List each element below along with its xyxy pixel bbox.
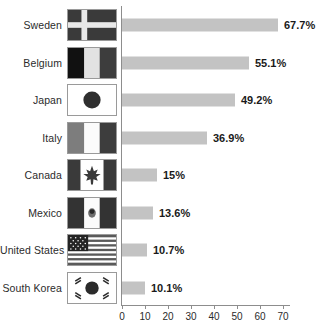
- bar-value-label: 13.6%: [159, 207, 190, 219]
- flag-belgium-icon: [67, 47, 117, 79]
- x-axis-tick: [237, 305, 238, 309]
- bar: [122, 19, 278, 32]
- x-axis-tick-label: 10: [139, 311, 150, 322]
- flag-mexico-icon: [67, 197, 117, 229]
- bar-value-label: 67.7%: [284, 19, 315, 31]
- bar: [122, 244, 147, 257]
- x-axis-tick: [283, 305, 284, 309]
- bar-value-label: 15%: [163, 169, 185, 181]
- x-axis-tick: [260, 305, 261, 309]
- category-label: United States: [0, 244, 62, 256]
- bar: [122, 206, 153, 219]
- category-label: Belgium: [0, 57, 62, 69]
- x-axis-tick-label: 50: [231, 311, 242, 322]
- category-label: Canada: [0, 169, 62, 181]
- table-row: Belgium 55.1%: [0, 44, 317, 82]
- bar: [122, 281, 145, 294]
- x-axis-tick: [214, 305, 215, 309]
- x-axis-tick-label: 40: [208, 311, 219, 322]
- category-label: Japan: [0, 94, 62, 106]
- x-axis-tick-label: 60: [254, 311, 265, 322]
- bar-value-label: 36.9%: [213, 132, 244, 144]
- flag-japan-icon: [67, 84, 117, 116]
- table-row: United States 10.7%: [0, 231, 317, 269]
- table-row: Mexico 13.6%: [0, 194, 317, 232]
- bar: [122, 94, 235, 107]
- flag-united-states-icon: [67, 234, 117, 266]
- category-label: South Korea: [0, 282, 62, 294]
- table-row: South Korea 10.1%: [0, 269, 317, 307]
- flag-south-korea-icon: [67, 272, 117, 304]
- bar-value-label: 55.1%: [255, 57, 286, 69]
- bar-value-label: 49.2%: [241, 94, 272, 106]
- category-label: Italy: [0, 132, 62, 144]
- flag-canada-icon: [67, 159, 117, 191]
- x-axis-tick-label: 0: [119, 311, 125, 322]
- x-axis-line: [121, 305, 290, 306]
- x-axis-tick-label: 70: [277, 311, 288, 322]
- y-axis-line: [121, 6, 122, 305]
- table-row: Japan 49.2%: [0, 81, 317, 119]
- flag-italy-icon: [67, 122, 117, 154]
- bar: [122, 169, 157, 182]
- x-axis-tick: [168, 305, 169, 309]
- bar-value-label: 10.7%: [153, 244, 184, 256]
- bar: [122, 131, 207, 144]
- bar: [122, 56, 249, 69]
- category-label: Sweden: [0, 19, 62, 31]
- bar-value-label: 10.1%: [151, 282, 182, 294]
- bar-chart: Sweden 67.7%Belgium 55.1%Japan 49.2%Ital…: [0, 0, 317, 332]
- table-row: Canada 15%: [0, 156, 317, 194]
- x-axis-tick-label: 20: [162, 311, 173, 322]
- x-axis-tick-label: 30: [185, 311, 196, 322]
- category-label: Mexico: [0, 207, 62, 219]
- table-row: Italy 36.9%: [0, 119, 317, 157]
- flag-sweden-icon: [67, 9, 117, 41]
- x-axis-tick: [145, 305, 146, 309]
- table-row: Sweden 67.7%: [0, 6, 317, 44]
- x-axis-tick: [191, 305, 192, 309]
- x-axis-tick: [122, 305, 123, 309]
